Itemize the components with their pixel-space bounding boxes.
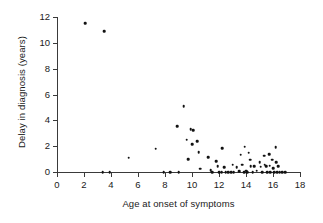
data-point <box>199 167 202 170</box>
data-point <box>154 147 157 150</box>
data-point <box>239 153 242 156</box>
x-tick-label: 2 <box>74 180 94 190</box>
data-point <box>231 164 234 167</box>
x-tick-mark <box>165 173 166 177</box>
x-tick-label: 4 <box>101 180 121 190</box>
data-point <box>196 140 199 143</box>
data-point <box>185 138 188 141</box>
y-tick-label: 12 <box>28 12 50 22</box>
data-point <box>207 156 210 159</box>
y-tick-mark <box>53 95 57 96</box>
data-point <box>187 158 190 161</box>
y-axis-line <box>57 17 58 173</box>
x-tick-mark <box>192 173 193 177</box>
x-tick-mark <box>300 173 301 177</box>
data-point <box>103 30 106 33</box>
data-point <box>241 164 244 167</box>
y-tick-label: 10 <box>28 38 50 48</box>
data-point <box>197 151 200 154</box>
x-tick-label: 6 <box>128 180 148 190</box>
data-point <box>235 166 238 169</box>
x-tick-mark <box>57 173 58 177</box>
data-point <box>247 151 250 154</box>
x-tick-label: 16 <box>263 180 283 190</box>
data-point <box>268 164 271 167</box>
y-tick-mark <box>53 69 57 70</box>
data-point <box>215 160 218 163</box>
x-tick-mark <box>273 173 274 177</box>
y-tick-mark <box>53 120 57 121</box>
data-point <box>264 164 267 167</box>
data-point <box>191 143 194 146</box>
x-tick-label: 14 <box>236 180 256 190</box>
data-point <box>176 125 179 128</box>
data-point <box>274 146 277 149</box>
x-tick-label: 18 <box>290 180 310 190</box>
data-point <box>275 161 278 164</box>
y-tick-label: 8 <box>28 64 50 74</box>
data-point <box>253 165 256 168</box>
y-tick-label: 6 <box>28 90 50 100</box>
y-tick-label: 4 <box>28 115 50 125</box>
x-tick-label: 0 <box>47 180 67 190</box>
data-point <box>265 165 268 168</box>
data-point <box>258 161 261 164</box>
x-tick-label: 12 <box>209 180 229 190</box>
data-point <box>272 167 275 170</box>
data-point <box>223 166 226 169</box>
scatter-plot-figure: Delay in diagnosis (years) Age at onset … <box>0 0 323 223</box>
data-point <box>221 147 224 150</box>
data-point <box>277 165 280 168</box>
data-point <box>189 128 192 131</box>
data-point <box>183 105 186 108</box>
y-tick-mark <box>53 43 57 44</box>
x-tick-label: 10 <box>182 180 202 190</box>
data-point <box>263 155 266 158</box>
y-tick-mark <box>53 146 57 147</box>
data-point <box>249 165 252 168</box>
data-point <box>249 158 252 161</box>
y-tick-label: 0 <box>28 167 50 177</box>
data-point <box>216 165 219 168</box>
y-tick-mark <box>53 17 57 18</box>
x-tick-label: 8 <box>155 180 175 190</box>
x-tick-mark <box>138 173 139 177</box>
data-point <box>260 166 263 169</box>
x-tick-mark <box>246 173 247 177</box>
x-axis-label: Age at onset of symptoms <box>57 198 300 210</box>
data-point <box>210 169 213 172</box>
data-point <box>84 22 87 25</box>
x-axis-line <box>57 172 301 173</box>
data-point <box>243 146 246 149</box>
data-point <box>192 129 195 132</box>
data-point <box>268 153 271 156</box>
x-tick-mark <box>219 173 220 177</box>
x-tick-mark <box>111 173 112 177</box>
y-tick-label: 2 <box>28 141 50 151</box>
data-point <box>271 158 274 161</box>
data-point <box>127 156 130 159</box>
x-tick-mark <box>84 173 85 177</box>
